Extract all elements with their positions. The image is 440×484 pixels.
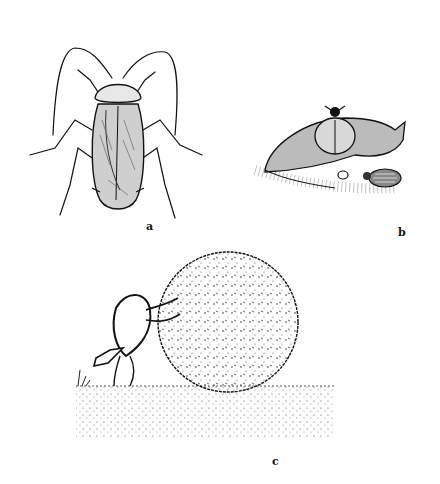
panel-b-carrion-beetles [245,100,425,200]
panel-c-dung-beetle [68,238,338,438]
panel-c-label: c [272,455,279,468]
cockroach-illustration [20,20,210,230]
panel-b-label: b [398,226,406,239]
panel-a-cockroach [20,20,210,230]
dung-beetle-illustration [68,238,338,438]
carrion-beetle-illustration [245,100,425,200]
panel-a-label: a [146,220,153,233]
